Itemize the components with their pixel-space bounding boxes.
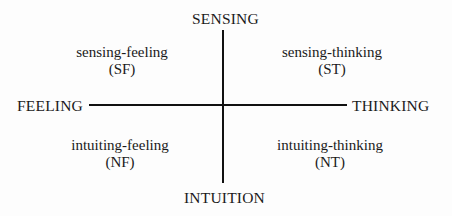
axis-label-bottom: INTUITION [184,190,265,206]
quadrant-top-left: sensing-feeling (SF) [72,44,172,78]
quadrant-top-right: sensing-thinking (ST) [276,44,388,78]
axis-label-top: SENSING [192,11,259,27]
quadrant-bottom-right: intuiting-thinking (NT) [270,137,390,171]
quadrant-bottom-left: intuiting-feeling (NF) [66,137,174,171]
axis-label-left: FEELING [17,98,83,114]
quadrant-name: sensing-thinking [276,44,388,61]
quadrant-abbr: (ST) [276,61,388,78]
quadrant-name: sensing-feeling [72,44,172,61]
axis-label-right: THINKING [352,98,429,114]
horizontal-axis-line [89,104,347,106]
quadrant-abbr: (NF) [66,154,174,171]
quadrant-abbr: (SF) [72,61,172,78]
quadrant-abbr: (NT) [270,154,390,171]
vertical-axis-line [222,30,224,183]
quadrant-name: intuiting-thinking [270,137,390,154]
quadrant-name: intuiting-feeling [66,137,174,154]
